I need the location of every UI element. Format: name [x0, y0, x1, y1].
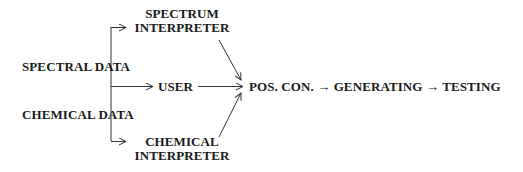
generating-label: GENERATING: [334, 79, 423, 94]
arrow-chemical-to-poscon: [219, 93, 241, 137]
chemical-interpreter-line1: CHEMICAL: [132, 135, 232, 149]
testing-label: TESTING: [442, 79, 501, 94]
pipeline-row: POS. CON. → GENERATING → TESTING: [249, 80, 501, 94]
arrow-spectrum-to-poscon: [219, 40, 241, 80]
arrow-right-icon: →: [426, 79, 439, 94]
spectrum-interpreter-label: SPECTRUM INTERPRETER: [132, 7, 232, 35]
spectrum-interpreter-line2: INTERPRETER: [132, 21, 232, 35]
pos-con-label: POS. CON.: [249, 79, 314, 94]
user-label: USER: [158, 80, 193, 94]
arrow-right-icon: →: [317, 79, 330, 94]
chemical-interpreter-line2: INTERPRETER: [132, 149, 232, 163]
spectrum-interpreter-line1: SPECTRUM: [132, 7, 232, 21]
chemical-data-label: CHEMICAL DATA: [22, 108, 134, 122]
chemical-interpreter-label: CHEMICAL INTERPRETER: [132, 135, 232, 163]
spectral-data-label: SPECTRAL DATA: [22, 60, 130, 74]
